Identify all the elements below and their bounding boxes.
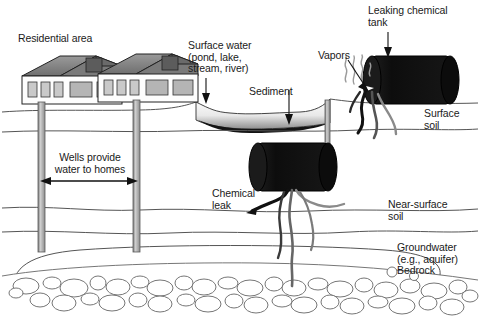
- surface-chemical-tank: [363, 56, 459, 104]
- diagram-canvas: Residential area Surface water (pond, la…: [0, 0, 480, 327]
- surface-water-body: [196, 99, 330, 133]
- buried-chemical-tank: [249, 143, 337, 191]
- label-leaking-chemical-tank: Leaking chemical tank: [368, 5, 448, 28]
- label-groundwater: Groundwater (e.g., aquifer): [397, 242, 458, 265]
- label-wells: Wells provide water to homes: [36, 152, 144, 175]
- label-near-surface-soil: Near-surface soil: [388, 199, 448, 222]
- label-bedrock: Bedrock: [397, 265, 435, 277]
- house-right: [98, 54, 198, 102]
- well-pipe-right: [133, 100, 140, 252]
- label-surface-water: Surface water (pond, lake, stream, river…: [188, 40, 251, 75]
- label-residential-area: Residential area: [18, 33, 92, 45]
- label-surface-soil: Surface soil: [424, 108, 460, 131]
- label-chemical-leak: Chemical leak: [212, 188, 255, 211]
- label-sediment: Sediment: [249, 86, 293, 98]
- label-vapors: Vapors: [318, 50, 350, 62]
- well-pipe-left: [38, 102, 45, 252]
- tank-support-pipe: [325, 100, 330, 150]
- wells-span-arrow: [40, 177, 138, 185]
